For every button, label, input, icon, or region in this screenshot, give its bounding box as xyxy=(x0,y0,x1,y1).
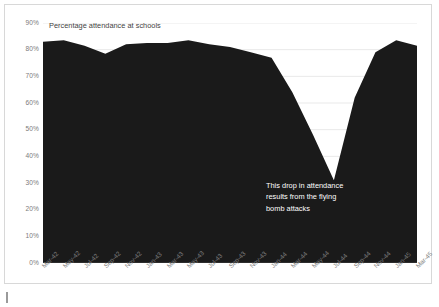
y-axis-tick-label: 90% xyxy=(5,20,39,27)
y-axis: 90%80%70%60%50%40%30%20%10%0% xyxy=(5,23,39,263)
plot-area xyxy=(43,23,417,263)
chart-figure: 90%80%70%60%50%40%30%20%10%0% Percentage… xyxy=(0,0,439,307)
y-axis-tick-label: 40% xyxy=(5,153,39,160)
y-axis-tick-label: 10% xyxy=(5,233,39,240)
x-axis: Mar-42May-42Jul-42Sep-42Nov-42Jan-43Mar-… xyxy=(43,263,417,307)
caption-marker xyxy=(6,292,8,303)
annotation-line-1: This drop in attendance xyxy=(266,180,388,191)
chart-title: Percentage attendance at schools xyxy=(49,21,161,30)
y-axis-tick-label: 50% xyxy=(5,126,39,133)
x-axis-tick-label: Mar-45 xyxy=(415,251,434,270)
attendance-area-series xyxy=(43,40,417,263)
annotation-line-3: bomb attacks xyxy=(266,203,388,214)
y-axis-tick-label: 70% xyxy=(5,73,39,80)
y-axis-tick-label: 20% xyxy=(5,206,39,213)
y-axis-tick-label: 80% xyxy=(5,46,39,53)
annotation-line-2: results from the flying xyxy=(266,191,388,202)
y-axis-tick-label: 30% xyxy=(5,180,39,187)
area-chart-svg xyxy=(43,23,417,263)
drop-annotation: This drop in attendance results from the… xyxy=(266,180,388,214)
chart-card: 90%80%70%60%50%40%30%20%10%0% Percentage… xyxy=(4,4,432,284)
y-axis-tick-label: 0% xyxy=(5,260,39,267)
y-axis-tick-label: 60% xyxy=(5,100,39,107)
